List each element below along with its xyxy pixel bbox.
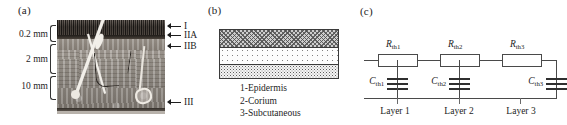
skin-layer-stack: [219, 29, 339, 79]
resistor-th1-subscript: th1: [392, 43, 400, 50]
capacitor-th2-subscript: th2: [438, 80, 446, 87]
layer-callout-iia-label: IIA: [184, 30, 197, 40]
resistor-th2: [440, 54, 480, 67]
legend-item-1: 1-Epidermis: [240, 82, 301, 95]
capacitor-th2-symbol: C: [431, 76, 437, 86]
layer-divider-tick-3: [520, 98, 521, 104]
wire-ground-rail: [364, 98, 557, 99]
wire-input: [364, 60, 378, 61]
model-layer-subcutaneous: [220, 65, 338, 79]
capacitor-th2-plate-mid: [449, 83, 470, 85]
capacitor-th2-plate-top: [449, 78, 470, 80]
layer-callout-iii: III: [167, 97, 194, 107]
photo-band-epidermis: [57, 20, 165, 35]
hair-follicle-bulb: [71, 90, 80, 99]
capacitor-th1-plate-mid: [387, 83, 408, 85]
photo-band-papillary-dermis: [57, 39, 165, 50]
photo-band-base: [57, 111, 165, 114]
skin-histology-image: [57, 20, 165, 114]
resistor-th3-label: Rth3: [510, 39, 524, 49]
capacitor-th3-label: Cth3: [513, 76, 543, 86]
depth-label-0: 0.2 mm: [4, 29, 48, 39]
panel-a-skin-photograph: (a) 0.2 mm 2 mm 10 mm I: [0, 0, 200, 125]
layer-divider-tick-1: [397, 98, 398, 104]
circuit-layer-name-2: Layer 2: [428, 106, 490, 116]
resistor-th1-label: Rth1: [386, 39, 400, 49]
capacitor-th2-plate-bottom: [449, 88, 470, 90]
capacitor-th3-plate-mid: [546, 83, 567, 85]
wire-node0-cap-stub: [397, 60, 398, 80]
layer-callout-iib: IIB: [167, 41, 197, 51]
capacitor-th1-symbol: C: [369, 76, 375, 86]
depth-brace-2: [50, 76, 56, 100]
circuit-layer-name-1: Layer 1: [364, 106, 426, 116]
layer-legend: 1-Epidermis 2-Corium 3-Subcutaneous: [240, 82, 301, 120]
capacitor-th3-subscript: th3: [535, 80, 543, 87]
layer-callout-iia: IIA: [167, 30, 197, 40]
rc-ladder-network: Rth1 Cth1 Rth2: [360, 0, 562, 125]
wire-r2-to-node2: [480, 60, 502, 61]
depth-brace-1: [50, 44, 56, 74]
resistor-th1: [378, 54, 418, 67]
left-arrow-icon: [167, 23, 181, 30]
capacitor-th3-plate-top: [546, 78, 567, 80]
resistor-th2-subscript: th2: [454, 43, 462, 50]
wire-cap1-to-ground: [397, 88, 398, 98]
capacitor-th1-subscript: th1: [376, 80, 384, 87]
resistor-th2-symbol: R: [448, 39, 454, 49]
left-arrow-icon: [167, 99, 181, 106]
wire-r1-to-node1: [418, 60, 440, 61]
resistor-th3-symbol: R: [510, 39, 516, 49]
capacitor-th3-plate-bottom: [546, 88, 567, 90]
layer-divider-tick-2: [459, 98, 460, 104]
wire-r3-to-node3: [542, 60, 557, 61]
layer-callout-iii-label: III: [184, 97, 194, 107]
model-layer-corium: [220, 48, 338, 65]
left-arrow-icon: [167, 43, 181, 50]
layer-callout-iib-label: IIB: [184, 41, 197, 51]
depth-brace-0: [50, 25, 56, 42]
capacitor-th2-label: Cth2: [416, 76, 446, 86]
left-arrow-icon: [167, 32, 181, 39]
legend-item-2: 2-Corium: [240, 95, 301, 108]
model-layer-epidermis: [220, 30, 338, 48]
panel-b-label: (b): [208, 4, 221, 16]
blood-vessel-branch-right: [114, 49, 132, 73]
legend-item-3: 3-Subcutaneous: [240, 107, 301, 120]
panel-b-layer-model: (b) 1-Epidermis 2-Corium 3-Subcutaneous: [200, 0, 360, 125]
capacitor-th3-symbol: C: [528, 76, 534, 86]
capacitor-th1-label: Cth1: [354, 76, 384, 86]
resistor-th1-symbol: R: [386, 39, 392, 49]
panel-a-label: (a): [18, 4, 31, 16]
resistor-th3-subscript: th3: [516, 43, 524, 50]
circuit-layer-name-3: Layer 3: [490, 106, 552, 116]
panel-c-rc-circuit: (c) Rth1 Cth1 Rth2: [360, 0, 562, 125]
depth-label-2: 10 mm: [4, 81, 48, 91]
depth-label-1: 2 mm: [4, 54, 48, 64]
resistor-th2-label: Rth2: [448, 39, 462, 49]
capacitor-th1-plate-top: [387, 78, 408, 80]
resistor-th3: [502, 54, 542, 67]
